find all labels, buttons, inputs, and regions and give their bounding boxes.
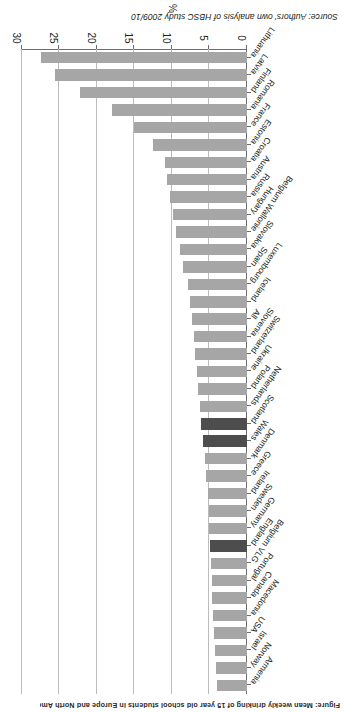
bar — [183, 261, 247, 273]
category-tick — [247, 74, 251, 75]
axis-tick-label: 20 — [86, 32, 97, 43]
axis-tick — [134, 45, 135, 49]
bar — [212, 575, 247, 587]
source-note: Source: Authors' own analysis of HBSC st… — [8, 12, 338, 22]
category-tick — [247, 423, 251, 424]
bar — [197, 366, 247, 378]
bar — [213, 610, 247, 622]
bar-row — [22, 261, 247, 273]
bar — [41, 52, 247, 64]
bar — [216, 645, 248, 657]
bar-row — [22, 122, 247, 134]
category-tick — [247, 405, 251, 406]
figure-root: Figure: Mean weekly drinking of 15 year … — [0, 0, 350, 712]
category-tick — [247, 388, 251, 389]
axis-tick — [59, 45, 60, 49]
bar — [203, 435, 247, 447]
axis-tick-label: 15 — [124, 32, 135, 43]
bar-chart-plot-area: LithuaniaLatviaFinlandRomaniaFranceEston… — [22, 49, 247, 694]
bar-row — [22, 87, 247, 99]
bar-row — [22, 348, 247, 360]
bar-row — [22, 627, 247, 639]
category-tick — [247, 580, 251, 581]
axis-tick-label: 10 — [161, 32, 172, 43]
bar-row — [22, 558, 247, 570]
bar — [209, 505, 247, 517]
category-tick — [247, 597, 251, 598]
bar — [210, 540, 247, 552]
category-tick — [247, 527, 251, 528]
bar-row — [22, 435, 247, 447]
bar — [201, 418, 247, 430]
axis-tick-label: 0 — [236, 35, 247, 41]
bar-row — [22, 540, 247, 552]
bar — [171, 191, 248, 203]
bar-row — [22, 523, 247, 535]
bar-row — [22, 575, 247, 587]
bar — [174, 209, 248, 221]
bar-row — [22, 592, 247, 604]
category-tick — [247, 684, 251, 685]
bar — [214, 627, 247, 639]
category-tick — [247, 458, 251, 459]
bar — [205, 453, 247, 465]
category-tick — [247, 632, 251, 633]
bar-row — [22, 104, 247, 116]
category-tick — [247, 440, 251, 441]
category-tick — [247, 475, 251, 476]
axis-tick-label: 25 — [49, 32, 60, 43]
bar-row — [22, 69, 247, 81]
bar — [198, 383, 247, 395]
axis-tick-label: 30 — [11, 32, 22, 43]
category-tick — [247, 266, 251, 267]
bar — [134, 122, 247, 134]
bar — [194, 331, 247, 343]
bar — [213, 592, 248, 604]
bar — [55, 69, 247, 81]
bar — [192, 313, 247, 325]
bar-row — [22, 610, 247, 622]
bar — [201, 401, 248, 413]
bar — [153, 139, 247, 151]
bar-row — [22, 418, 247, 430]
category-tick — [247, 248, 251, 249]
bar — [176, 226, 247, 238]
bar-row — [22, 296, 247, 308]
axis-tick — [21, 45, 22, 49]
category-tick — [247, 545, 251, 546]
bar — [190, 296, 247, 308]
bar-row — [22, 505, 247, 517]
bar-row — [22, 331, 247, 343]
bar-row — [22, 366, 247, 378]
category-tick — [247, 92, 251, 93]
bar — [211, 558, 247, 570]
axis-tick — [209, 45, 210, 49]
bar — [216, 662, 247, 674]
category-tick — [247, 615, 251, 616]
bar-row — [22, 662, 247, 674]
bar — [210, 523, 248, 535]
axis-tick-label: 5 — [199, 35, 210, 41]
bar-row — [22, 226, 247, 238]
bar — [112, 104, 247, 116]
axis-tick — [246, 45, 247, 49]
bar-row — [22, 191, 247, 203]
category-tick — [247, 161, 251, 162]
category-tick — [247, 318, 251, 319]
bar-row — [22, 209, 247, 221]
bar-row — [22, 279, 247, 291]
category-tick — [247, 510, 251, 511]
category-tick — [247, 353, 251, 354]
axis-tick — [171, 45, 172, 49]
bar-row — [22, 680, 247, 692]
bar-row — [22, 157, 247, 169]
category-tick — [247, 214, 251, 215]
bar — [165, 157, 247, 169]
category-tick — [247, 231, 251, 232]
category-tick — [247, 562, 251, 563]
bar — [207, 470, 248, 482]
bar-row — [22, 139, 247, 151]
category-tick — [247, 126, 251, 127]
category-tick — [247, 667, 251, 668]
bar-row — [22, 401, 247, 413]
